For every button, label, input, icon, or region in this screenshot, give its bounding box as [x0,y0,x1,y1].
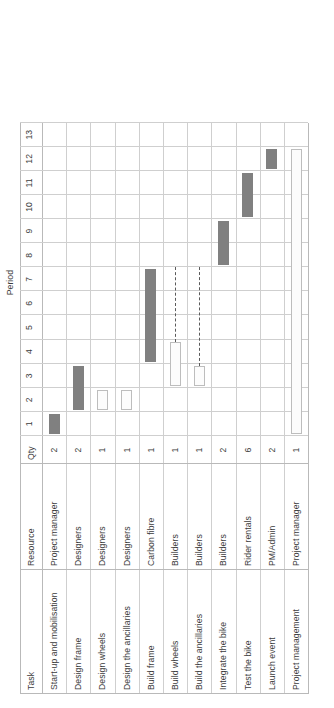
period-tick-2: 2 [24,388,34,412]
task-name-cell: Build the ancillaries [187,570,211,694]
dependency-line [199,267,200,365]
period-gridline [20,290,308,291]
period-tick-7: 7 [24,267,34,291]
task-name-cell: Test the bike [236,570,260,694]
qty-cell: 1 [115,436,139,464]
resource-cell: Project manager [284,464,308,570]
column-header-task: Task [20,570,42,694]
dependency-line [175,267,176,341]
column-header-resource: Resource [20,464,42,570]
qty-cell: 6 [236,436,260,464]
period-tick-3: 3 [24,364,34,388]
resource-cell: PM/Admin [260,464,284,570]
gantt-bar [145,269,156,361]
period-gridline [20,242,308,243]
resource-cell: Builders [163,464,187,570]
task-name-cell: Design frame [66,570,90,694]
resource-cell: Designers [115,464,139,570]
gantt-sheet: TaskResourceQty12345678910111213PeriodSt… [0,0,334,708]
task-name-cell: Integrate the bike [211,570,235,694]
period-gridline [20,339,308,340]
gantt-bar [194,366,205,386]
period-tick-4: 4 [24,340,34,364]
qty-cell: 1 [90,436,114,464]
qty-cell: 2 [211,436,235,464]
period-gridline [20,170,308,171]
period-tick-9: 9 [24,219,34,243]
gantt-bar [242,173,253,217]
resource-cell: Builders [187,464,211,570]
period-tick-11: 11 [24,171,34,195]
task-name-cell: Design wheels [90,570,114,694]
axis-title-period: Period [5,270,15,295]
period-tick-10: 10 [24,195,34,219]
qty-cell: 1 [284,436,308,464]
table-bottom-border [308,123,309,694]
period-gridline [20,122,308,123]
gantt-bar [218,221,229,265]
period-gridline [20,266,308,267]
resource-cell: Rider rentals [236,464,260,570]
resource-cell: Project manager [42,464,66,570]
gantt-plate: TaskResourceQty12345678910111213PeriodSt… [0,0,334,708]
gantt-bar [266,149,277,169]
qty-cell: 1 [187,436,211,464]
qty-cell: 1 [163,436,187,464]
column-header-qty: Qty [20,436,42,464]
qty-cell: 1 [139,436,163,464]
gantt-bar [291,149,302,434]
period-gridline [20,194,308,195]
qty-cell: 2 [260,436,284,464]
gantt-bar [97,390,108,410]
qty-cell: 2 [66,436,90,464]
resource-cell: Designers [66,464,90,570]
task-name-cell: Build frame [139,570,163,694]
task-name-cell: Launch event [260,570,284,694]
period-tick-1: 1 [24,412,34,436]
resource-cell: Designers [90,464,114,570]
period-tick-5: 5 [24,316,34,340]
task-name-cell: Build wheels [163,570,187,694]
period-gridline [20,146,308,147]
task-name-cell: Design the ancillaries [115,570,139,694]
period-tick-12: 12 [24,147,34,171]
period-gridline [20,363,308,364]
period-gridline [20,218,308,219]
period-tick-13: 13 [24,123,34,147]
gantt-bar [170,342,181,386]
resource-cell: Builders [211,464,235,570]
gantt-bar [73,366,84,410]
period-tick-6: 6 [24,291,34,315]
period-gridline [20,315,308,316]
resource-cell: Carbon fibre [139,464,163,570]
period-gridline [20,387,308,388]
gantt-bar [121,390,132,410]
task-name-cell: Start-up and mobilisation [42,570,66,694]
period-gridline [20,411,308,412]
period-tick-8: 8 [24,243,34,267]
gantt-bar [49,414,60,434]
task-name-cell: Project management [284,570,308,694]
qty-cell: 2 [42,436,66,464]
